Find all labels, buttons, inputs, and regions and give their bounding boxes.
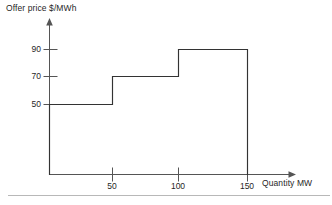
x-axis-arrow-icon (289, 171, 297, 178)
step-block-2 (113, 77, 179, 175)
step-blocks (50, 50, 248, 175)
supply-step-curve (50, 50, 248, 175)
x-axis-group (50, 171, 297, 178)
y-axis-arrow-icon (46, 18, 53, 26)
page-divider (8, 195, 330, 196)
chart-canvas (0, 0, 332, 205)
y-tick-marks (44, 50, 58, 105)
step-block-1 (50, 105, 113, 175)
offer-price-step-chart: Offer price $/MWh Quantity MW 90 70 50 5… (0, 0, 332, 205)
step-block-3 (179, 50, 248, 175)
step-outline-path (50, 50, 248, 175)
